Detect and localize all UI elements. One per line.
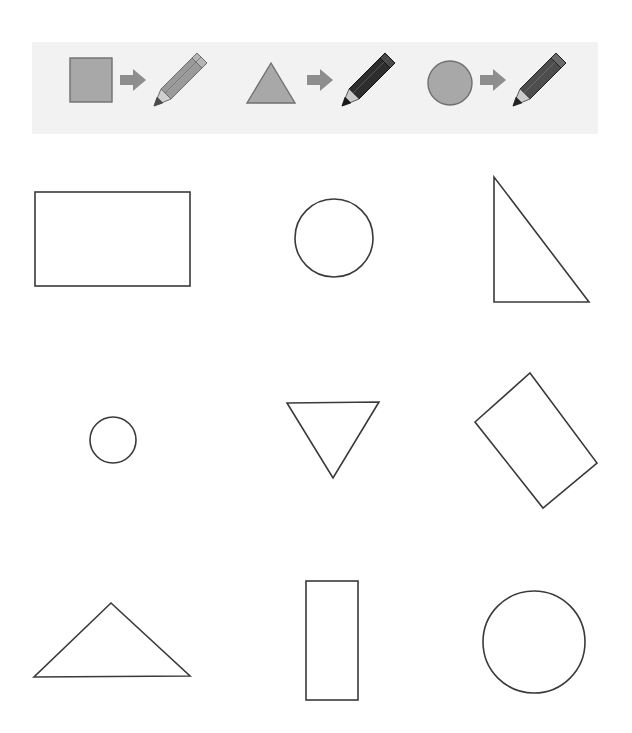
grid-shape-rectangle[interactable]	[35, 192, 190, 286]
grid-shape-inverted-triangle[interactable]	[287, 402, 379, 478]
shape-grid-graphic	[0, 0, 632, 733]
grid-shape-circle[interactable]	[483, 591, 585, 693]
grid-shape-circle[interactable]	[90, 417, 136, 463]
grid-shape-rectangle[interactable]	[306, 581, 358, 700]
grid-shape-circle[interactable]	[295, 199, 373, 277]
shape-grid	[0, 0, 632, 733]
grid-shape-triangle[interactable]	[34, 603, 190, 677]
grid-shape-rotated-rectangle[interactable]	[475, 373, 597, 508]
worksheet-page: Shape Sorting Worksheet	[0, 0, 632, 733]
grid-shape-right-triangle[interactable]	[494, 177, 589, 302]
